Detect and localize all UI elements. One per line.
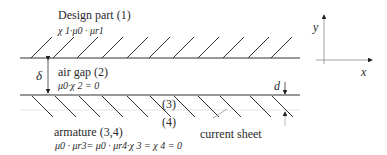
x-axis-label: x xyxy=(361,66,366,78)
y-axis-label: y xyxy=(313,21,318,33)
design-part-formula: χ 1·μ0 · μr1 xyxy=(58,26,104,36)
armature-boundary xyxy=(20,95,300,117)
design-part-hatching xyxy=(31,37,292,58)
gap-delta-label: δ xyxy=(36,70,42,82)
design-part-boundary xyxy=(20,37,300,58)
armature-title: armature (3,4) xyxy=(54,126,123,138)
layer-3-label: (3) xyxy=(162,98,176,110)
design-part-title: Design part (1) xyxy=(58,9,131,21)
air-gap-formula: μ0·χ 2 = 0 xyxy=(58,81,99,91)
air-gap-title: air gap (2) xyxy=(58,66,108,78)
sheet-thickness-label: d xyxy=(274,80,280,92)
current-sheet-label: current sheet xyxy=(200,128,262,140)
coordinate-axes xyxy=(316,15,372,64)
layer-4-label: (4) xyxy=(162,116,176,128)
armature-formula: μ0 · μr3= μ0 · μr4·χ 3 = χ 4 = 0 xyxy=(55,141,182,151)
